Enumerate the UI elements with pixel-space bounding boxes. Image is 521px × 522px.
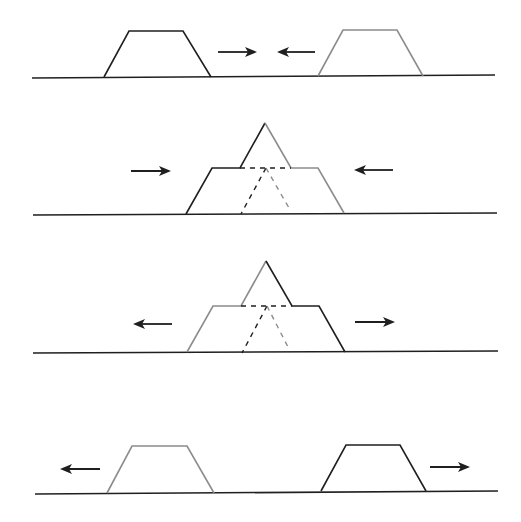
arrow-left-icon bbox=[133, 319, 172, 329]
panel-3-separation bbox=[33, 261, 498, 353]
arrow-right-icon bbox=[218, 47, 257, 57]
left-block bbox=[107, 446, 214, 493]
arrow-left-icon bbox=[354, 165, 393, 175]
right-block bbox=[321, 445, 426, 491]
right-block-solid bbox=[265, 123, 344, 213]
left-block bbox=[104, 31, 211, 77]
collision-diagram bbox=[0, 0, 521, 522]
diagram-panels bbox=[32, 30, 498, 494]
right-block-solid bbox=[266, 261, 345, 352]
ground-baseline bbox=[35, 491, 498, 494]
arrow-right-icon bbox=[430, 462, 470, 472]
panel-1-approach bbox=[32, 30, 495, 78]
panel-2-collision bbox=[33, 123, 497, 215]
arrow-left-icon bbox=[277, 47, 315, 57]
ground-baseline bbox=[32, 75, 495, 78]
ground-baseline bbox=[33, 351, 498, 353]
left-block-hidden-edge bbox=[241, 168, 266, 214]
arrow-left-icon bbox=[60, 464, 100, 474]
panel-4-departure bbox=[35, 445, 498, 494]
arrow-right-icon bbox=[131, 166, 171, 176]
left-block-hidden-edge bbox=[242, 306, 267, 353]
arrow-right-icon bbox=[355, 317, 395, 327]
right-block-hidden-edge bbox=[267, 306, 288, 347]
ground-baseline bbox=[33, 213, 497, 215]
right-block bbox=[318, 30, 423, 76]
right-block-hidden-edge bbox=[266, 168, 289, 208]
